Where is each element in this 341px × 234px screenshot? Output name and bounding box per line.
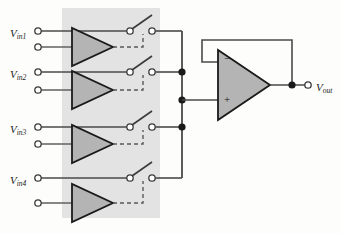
vin2-switch-right-terminal xyxy=(149,69,155,75)
vin1-switch-right-terminal xyxy=(149,28,155,34)
output-junction-dot xyxy=(288,81,295,88)
vin2-input-terminal[interactable] xyxy=(35,69,41,75)
opamp-inverting-input-label: − xyxy=(224,53,230,64)
vin4-reference-terminal[interactable] xyxy=(35,200,41,206)
output-opamp-group xyxy=(202,40,311,120)
vin2-reference-terminal[interactable] xyxy=(35,87,41,93)
schematic-canvas xyxy=(0,0,341,234)
bus-junction-vin2 xyxy=(178,68,185,75)
schematic-figure: Vin1 Vin2 Vin3 Vin4 Vout − + xyxy=(0,0,341,234)
vin4-switch-right-terminal xyxy=(149,175,155,181)
vin4-input-terminal[interactable] xyxy=(35,175,41,181)
vout-label: Vout xyxy=(316,78,332,95)
vin1-label: Vin1 xyxy=(10,24,26,41)
opamp-noninverting-input-label: + xyxy=(224,94,230,105)
vin3-input-terminal[interactable] xyxy=(35,124,41,130)
vin1-reference-terminal[interactable] xyxy=(35,44,41,50)
bus-junction-vin3 xyxy=(178,123,185,130)
vin2-label: Vin2 xyxy=(10,65,26,82)
vout-output-terminal[interactable] xyxy=(305,82,311,88)
vin3-reference-terminal[interactable] xyxy=(35,141,41,147)
vin3-label: Vin3 xyxy=(10,120,26,137)
vin4-label: Vin4 xyxy=(10,171,26,188)
vin1-input-terminal[interactable] xyxy=(35,28,41,34)
vin3-switch-right-terminal xyxy=(149,124,155,130)
